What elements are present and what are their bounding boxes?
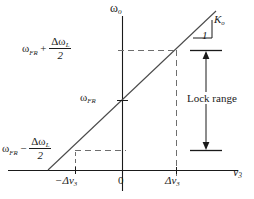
lock-range-text: Lock range xyxy=(186,92,238,104)
lower-level-numerator: Δω xyxy=(31,135,45,147)
x-tick-label-negative: −Δv3 xyxy=(55,175,77,186)
x-axis-label-subscript: 3 xyxy=(238,171,242,180)
upper-level-numerator: Δω xyxy=(51,35,65,47)
lock-range-label: Lock range xyxy=(186,93,238,104)
slope-rise-label: Ko xyxy=(214,14,225,25)
upper-level-numerator-group: ΔωL xyxy=(49,35,71,48)
x-tick-negative-subscript: 3 xyxy=(74,180,77,187)
x-tick-label-positive: Δv3 xyxy=(165,175,180,186)
slope-rise-subscript: o xyxy=(221,19,224,26)
x-tick-label-origin: 0 xyxy=(118,175,124,186)
lower-level-numerator-group: ΔωL xyxy=(29,135,51,148)
x-tick-negative-base: −Δv xyxy=(55,174,74,186)
center-level-label: ωFR xyxy=(80,92,96,103)
x-axis-label: v3 xyxy=(233,166,242,178)
upper-level-fraction: ΔωL2 xyxy=(49,35,71,61)
lower-level-label: ωFR − ΔωL2 xyxy=(2,136,51,162)
x-tick-positive-base: Δv xyxy=(165,174,176,186)
y-axis-label-subscript: o xyxy=(118,7,122,16)
lower-level-numerator-subscript: L xyxy=(46,141,50,148)
upper-level-operator: + xyxy=(40,43,46,54)
y-axis-label: ωo xyxy=(110,2,122,14)
lower-level-fraction: ΔωL2 xyxy=(29,135,51,161)
center-level-subscript: FR xyxy=(87,97,95,104)
upper-level-base-subscript: FR xyxy=(29,49,37,56)
y-axis-label-symbol: ω xyxy=(110,1,118,15)
upper-level-label: ωFR + ΔωL2 xyxy=(22,36,71,62)
upper-level-denominator: 2 xyxy=(49,49,71,62)
x-tick-positive-subscript: 3 xyxy=(176,180,179,187)
pll-lock-range-figure: ωo v3 ωFR + ΔωL2 ωFR ωFR − ΔωL2 Ko 1 Loc… xyxy=(0,0,254,199)
lower-level-operator: − xyxy=(20,143,26,154)
upper-level-numerator-subscript: L xyxy=(66,41,70,48)
lower-level-base-subscript: FR xyxy=(9,149,17,156)
slope-run-label: 1 xyxy=(202,30,208,41)
lower-level-denominator: 2 xyxy=(29,149,51,162)
transfer-characteristic-line xyxy=(48,11,216,170)
